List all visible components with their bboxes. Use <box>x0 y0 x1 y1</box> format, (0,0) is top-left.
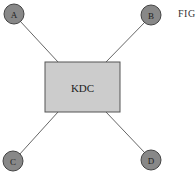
diagram-svg: KDC A B C D <box>0 0 196 174</box>
node-a-label: A <box>11 10 18 20</box>
node-d: D <box>141 150 161 170</box>
node-c: C <box>3 151 23 171</box>
edge-d-kdc <box>106 112 145 153</box>
edge-a-kdc <box>20 21 58 62</box>
edge-c-kdc <box>19 112 58 155</box>
kdc-diagram: KDC A B C D FIG <box>0 0 196 174</box>
node-b-label: B <box>148 11 154 21</box>
node-c-label: C <box>10 157 16 167</box>
figure-label: FIG <box>178 8 196 19</box>
node-d-label: D <box>148 156 155 166</box>
node-b: B <box>141 5 161 25</box>
edge-b-kdc <box>106 22 145 62</box>
kdc-label: KDC <box>71 82 94 94</box>
node-a: A <box>4 4 24 24</box>
